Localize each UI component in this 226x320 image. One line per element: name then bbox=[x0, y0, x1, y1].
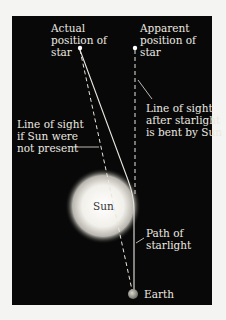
earth-icon bbox=[128, 289, 138, 299]
apparent-star-label: Apparent position of star bbox=[140, 22, 196, 58]
sun-label: Sun bbox=[93, 200, 114, 212]
earth-label: Earth bbox=[144, 288, 174, 300]
path-leader bbox=[136, 238, 144, 243]
actual-star-label: Actual position of star bbox=[51, 22, 107, 58]
unbent-sight-label: Line of sight if Sun were not present bbox=[17, 118, 84, 154]
apparent-star-icon bbox=[133, 46, 137, 50]
path-label: Path of starlight bbox=[146, 227, 191, 251]
bent-sight-label: Line of sight after starlight is bent by… bbox=[146, 102, 222, 138]
bent-sight-leader bbox=[138, 80, 152, 99]
